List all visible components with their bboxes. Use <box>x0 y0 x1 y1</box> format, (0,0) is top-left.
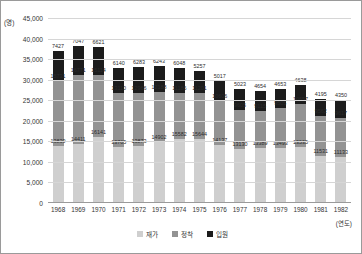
x-axis-tick: 1980 <box>290 206 310 218</box>
data-label-ipwon: 4653 <box>274 82 286 87</box>
stacked-bar[interactable]: 4195956211531 <box>315 99 326 203</box>
data-label-jeongchak: 12188 <box>152 85 167 90</box>
bar-column[interactable]: 62831296613873 <box>129 18 149 203</box>
bar-segment-jaega[interactable]: 13493 <box>275 148 286 203</box>
x-axis-tick: 1969 <box>68 206 88 218</box>
legend-item[interactable]: 입원 <box>207 229 228 239</box>
x-axis-tick: 1973 <box>149 206 169 218</box>
bar-segment-jeongchak[interactable]: 16771 <box>73 75 84 144</box>
data-label-jeongchak: 9605 <box>234 103 246 108</box>
bar-column[interactable]: 70471677114411 <box>68 18 88 203</box>
bar-segment-jaega[interactable]: 14902 <box>154 142 165 203</box>
data-label-jeongchak: 9562 <box>315 109 327 114</box>
stacked-bar[interactable]: 4654911513389 <box>255 91 266 203</box>
data-label-jeongchak: 11186 <box>172 86 186 91</box>
gridline <box>48 100 351 101</box>
bar-segment-jaega[interactable]: 16141 <box>93 137 104 203</box>
stacked-bar[interactable]: 74271573113839 <box>53 51 64 203</box>
data-label-jeongchak: 9617 <box>335 111 347 116</box>
bar-segment-jaega[interactable]: 13130 <box>234 149 245 203</box>
stacked-bar[interactable]: 5023960513130 <box>234 89 245 203</box>
bar-segment-jeongchak[interactable]: 15731 <box>53 81 64 146</box>
gridline <box>48 141 351 142</box>
data-label-jaega: 11531 <box>313 149 328 154</box>
data-label-jeongchak: 16771 <box>71 68 86 73</box>
x-axis-unit-label: (연도) <box>336 219 352 228</box>
legend-label: 재가 <box>146 229 158 239</box>
y-axis-tick: 15,000 <box>23 138 43 145</box>
legend-swatch-icon <box>137 231 143 237</box>
stacked-bar[interactable]: 4653950513493 <box>275 89 286 203</box>
data-label-jaega: 13130 <box>232 142 247 147</box>
gridline <box>48 59 351 60</box>
bar-column[interactable]: 52571120115644 <box>189 18 209 203</box>
chart-legend: 재가정착입원 <box>1 229 362 239</box>
bar-segment-jaega[interactable]: 15582 <box>174 139 185 203</box>
bar-segment-jaega[interactable]: 14411 <box>73 144 84 203</box>
legend-item[interactable]: 재가 <box>137 229 158 239</box>
bar-column[interactable]: 4195956211531 <box>311 18 331 203</box>
x-axis-tick: 1975 <box>189 206 209 218</box>
data-label-jeongchak: 13110 <box>111 86 126 91</box>
bar-segment-jaega[interactable]: 13389 <box>255 148 266 203</box>
data-label-jeongchak: 15114 <box>91 68 106 73</box>
bar-segment-jaega[interactable]: 15644 <box>194 139 205 203</box>
x-axis-tick: 1981 <box>311 206 331 218</box>
data-label-ipwon: 7047 <box>72 39 84 44</box>
bar-column[interactable]: 60481118615582 <box>169 18 189 203</box>
bar-segment-jaega[interactable]: 13705 <box>113 147 124 203</box>
bar-column[interactable]: 66211511416141 <box>88 18 108 203</box>
bar-column[interactable]: 5023960513130 <box>230 18 250 203</box>
bar-segment-jaega[interactable]: 11133 <box>335 157 346 203</box>
data-label-jeongchak: 11201 <box>192 86 207 91</box>
gridline <box>48 121 351 122</box>
x-axis-tick: 1970 <box>88 206 108 218</box>
x-axis-tick: 1968 <box>48 206 68 218</box>
y-axis-tick: 20,000 <box>23 117 43 124</box>
stacked-bar[interactable]: 70471677114411 <box>73 46 84 203</box>
data-label-jaega: 15644 <box>192 132 207 137</box>
y-axis-tick-labels: 45,00040,00035,00030,00025,00020,00015,0… <box>1 18 46 203</box>
data-label-ipwon: 6621 <box>93 40 105 45</box>
bar-column[interactable]: 4350961711133 <box>331 18 351 203</box>
bar-column[interactable]: 4654911513389 <box>250 18 270 203</box>
stacked-bar[interactable]: 46381065713535 <box>295 85 306 204</box>
gridline <box>48 39 351 40</box>
chart-container: (명) (연도) 45,00040,00035,00030,00025,0002… <box>0 0 362 254</box>
data-label-jeongchak: 10606 <box>212 94 227 99</box>
y-axis-tick: 25,000 <box>23 97 43 104</box>
data-label-jaega: 16141 <box>91 130 106 135</box>
bar-column[interactable]: 74271573113839 <box>48 18 68 203</box>
bar-column[interactable]: 46381065713535 <box>290 18 310 203</box>
bar-group: 7427157311383970471677114411662115114161… <box>48 18 351 203</box>
bar-segment-jaega[interactable]: 13839 <box>53 146 64 203</box>
bar-segment-jeongchak[interactable]: 15114 <box>93 75 104 137</box>
legend-swatch-icon <box>207 231 213 237</box>
y-axis-tick: 30,000 <box>23 76 43 83</box>
stacked-bar[interactable]: 66211511416141 <box>93 47 104 203</box>
legend-label: 입원 <box>216 229 228 239</box>
x-axis-category-labels: 1968196919701971197219731974197519761977… <box>48 206 351 218</box>
x-axis-tick: 1972 <box>129 206 149 218</box>
bar-column[interactable]: 4653950513493 <box>270 18 290 203</box>
y-axis-tick: 0 <box>39 200 43 207</box>
bar-column[interactable]: 50171060614137 <box>210 18 230 203</box>
y-axis-tick: 45,000 <box>23 15 43 22</box>
legend-item[interactable]: 정착 <box>172 229 193 239</box>
legend-label: 정착 <box>181 229 193 239</box>
x-axis-line <box>48 202 351 203</box>
bar-column[interactable]: 61401311013705 <box>109 18 129 203</box>
y-axis-tick: 40,000 <box>23 35 43 42</box>
bar-column[interactable]: 62431218814902 <box>149 18 169 203</box>
bar-segment-jaega[interactable]: 13535 <box>295 147 306 203</box>
data-label-ipwon: 6048 <box>173 61 185 66</box>
data-label-jeongchak: 9505 <box>274 101 286 106</box>
y-axis-tick: 5,000 <box>26 179 43 186</box>
bar-segment-jaega[interactable]: 13873 <box>133 146 144 203</box>
bar-segment-jaega[interactable]: 14137 <box>214 145 225 203</box>
data-label-ipwon: 5023 <box>234 82 246 87</box>
x-axis-tick: 1974 <box>169 206 189 218</box>
stacked-bar[interactable]: 4350961711133 <box>335 100 346 203</box>
data-label-ipwon: 5017 <box>214 74 226 79</box>
data-label-ipwon: 5257 <box>194 64 206 69</box>
